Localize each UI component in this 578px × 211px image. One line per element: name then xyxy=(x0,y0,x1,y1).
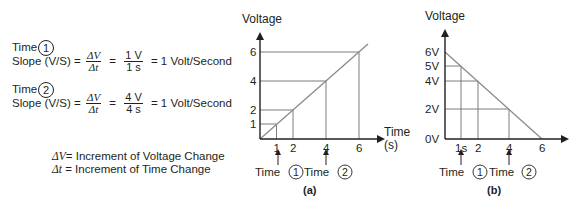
chart-b-ytick: 2V xyxy=(425,103,439,115)
chart-a-xtick: 2 xyxy=(290,142,296,154)
chart-b-xtick: 2 xyxy=(475,142,481,154)
chart-a-xtick: 1 xyxy=(274,142,280,154)
chart-a-panel-label: (a) xyxy=(303,184,317,196)
chart-a-ytick: 2 xyxy=(250,104,256,116)
chart-b-time2-label: Time xyxy=(489,166,514,178)
chart-a-xlabel-unit: (s) xyxy=(384,138,398,152)
chart-a-time1-marker: 1 xyxy=(293,166,299,178)
chart-a-xlabel: Time xyxy=(384,125,411,139)
chart-a-ramp-line xyxy=(260,44,368,139)
chart-b-xtick: 6 xyxy=(539,142,545,154)
chart-b-ylabel: Voltage xyxy=(425,9,465,23)
chart-a-ylabel: Voltage xyxy=(242,12,282,26)
chart-a-time2-marker: 2 xyxy=(342,166,348,178)
chart-a-ytick: 6 xyxy=(250,46,256,58)
chart-b-ramp-line xyxy=(445,52,542,139)
chart-a-ytick: 1 xyxy=(250,118,256,130)
chart-b-panel-label: (b) xyxy=(487,184,501,196)
chart-a-time2-label: Time xyxy=(304,166,329,178)
chart-a-ytick: 4 xyxy=(250,75,257,87)
charts-canvas: Voltage 6 4 2 1 1 2 4 6 Time (s) Time 1 xyxy=(0,0,578,211)
chart-a: Voltage 6 4 2 1 1 2 4 6 Time (s) Time 1 xyxy=(242,12,411,196)
chart-a-xtick: 6 xyxy=(356,142,362,154)
chart-a-time1-label: Time xyxy=(255,166,280,178)
chart-b-ytick: 6V xyxy=(425,46,439,58)
chart-b-guides xyxy=(445,66,509,139)
chart-b-ytick: 0V xyxy=(425,133,439,145)
chart-b-ytick: 4V xyxy=(425,75,439,87)
chart-b-time1-label: Time xyxy=(439,166,464,178)
chart-b: Voltage 6V 5V 4V 2V 0V 1s 2 4 6 Time 1 T… xyxy=(425,9,567,196)
chart-b-time2-marker: 2 xyxy=(526,166,532,178)
chart-b-time1-marker: 1 xyxy=(477,166,483,178)
chart-b-ytick: 5V xyxy=(425,60,439,72)
